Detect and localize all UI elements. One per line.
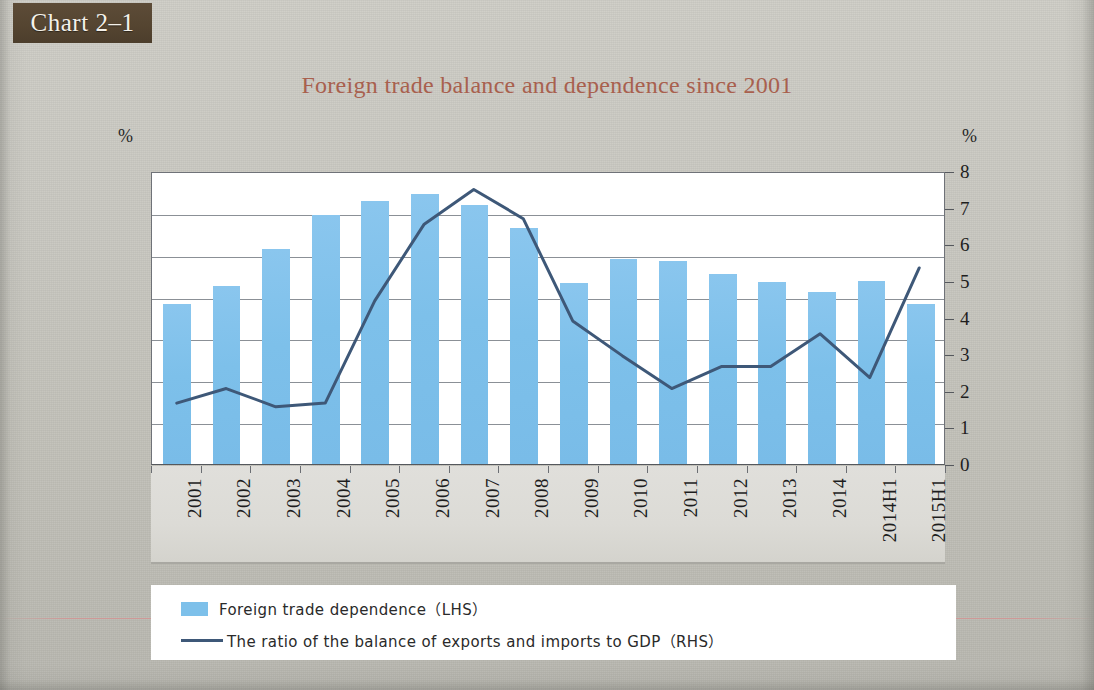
- right-axis-tick-label: 8: [960, 162, 970, 181]
- category-label: 2002: [233, 478, 255, 518]
- category-label: 2013: [779, 478, 801, 518]
- chart-number-label: Chart 2–1: [31, 9, 135, 37]
- category-tick-mark: [548, 466, 549, 473]
- category-tick-mark: [697, 466, 698, 473]
- category-tick-mark: [151, 466, 152, 473]
- category-tick-mark: [399, 466, 400, 473]
- category-label: 2014: [829, 478, 851, 518]
- category-tick-mark: [300, 466, 301, 473]
- category-label: 2014H1: [879, 478, 901, 542]
- category-tick-mark: [350, 466, 351, 473]
- right-axis-tick-mark: [945, 172, 954, 173]
- category-tick-mark: [846, 466, 847, 473]
- right-axis-tick-label: 6: [960, 235, 970, 254]
- plot-area: [151, 172, 945, 465]
- right-axis-tick-mark: [945, 282, 954, 283]
- right-axis-tick-mark: [945, 355, 954, 356]
- right-axis-unit: %: [962, 126, 977, 147]
- category-axis-band: 2001200220032004200520062007200820092010…: [151, 466, 945, 564]
- right-axis-tick-label: 2: [960, 382, 970, 401]
- right-axis-tick-label: 7: [960, 199, 970, 218]
- category-label: 2003: [283, 478, 305, 518]
- right-axis-tick-label: 0: [960, 455, 970, 474]
- page-canvas: Chart 2–1 Foreign trade balance and depe…: [0, 0, 1094, 690]
- chart-number-badge: Chart 2–1: [13, 3, 152, 43]
- category-label: 2015H1: [928, 478, 950, 542]
- category-label: 2011: [680, 478, 702, 517]
- right-axis-tick-label: 3: [960, 345, 970, 364]
- chart-legend: Foreign trade dependence（LHS） The ratio …: [151, 585, 956, 660]
- plot-area-wrapper: [151, 172, 945, 465]
- legend-line-swatch-icon: [181, 639, 223, 642]
- right-axis-tick-mark: [945, 319, 954, 320]
- right-axis-tick-label: 4: [960, 309, 970, 328]
- legend-item-label: The ratio of the balance of exports and …: [227, 630, 724, 651]
- category-label: 2005: [382, 478, 404, 518]
- category-label: 2010: [630, 478, 652, 518]
- category-label: 2004: [333, 478, 355, 518]
- category-label: 2008: [531, 478, 553, 518]
- category-label: 2009: [581, 478, 603, 518]
- left-axis-unit: %: [118, 126, 133, 147]
- legend-item-label: Foreign trade dependence（LHS）: [219, 598, 488, 619]
- chart-title: Foreign trade balance and dependence sin…: [0, 72, 1094, 99]
- category-tick-mark: [796, 466, 797, 473]
- right-axis-tick-mark: [945, 245, 954, 246]
- category-tick-mark: [498, 466, 499, 473]
- right-axis-tick-mark: [945, 428, 954, 429]
- category-tick-mark: [647, 466, 648, 473]
- category-label: 2001: [184, 478, 206, 518]
- category-tick-mark: [895, 466, 896, 473]
- line-series: [152, 173, 944, 465]
- legend-bar-swatch-icon: [181, 602, 208, 616]
- category-tick-mark: [945, 466, 946, 473]
- category-label: 2007: [482, 478, 504, 518]
- category-label: 2006: [432, 478, 454, 518]
- category-tick-mark: [449, 466, 450, 473]
- right-axis-tick-label: 1: [960, 418, 970, 437]
- legend-item-bars: Foreign trade dependence（LHS）: [181, 598, 488, 619]
- category-tick-mark: [250, 466, 251, 473]
- right-axis-tick-mark: [945, 392, 954, 393]
- right-axis-tick-label: 5: [960, 272, 970, 291]
- right-axis-tick-mark: [945, 209, 954, 210]
- line-series-path: [177, 189, 919, 406]
- legend-item-line: The ratio of the balance of exports and …: [181, 630, 724, 651]
- category-tick-mark: [747, 466, 748, 473]
- category-label: 2012: [730, 478, 752, 518]
- category-tick-mark: [598, 466, 599, 473]
- right-axis-tick-mark: [945, 465, 954, 466]
- category-tick-mark: [201, 466, 202, 473]
